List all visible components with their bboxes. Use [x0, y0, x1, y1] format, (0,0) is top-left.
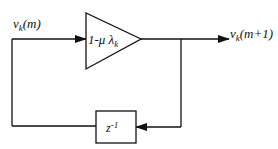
- input-label: vk(m): [13, 16, 41, 33]
- block-diagram: vk(m) 1-μ λk vk(m+1) z-1: [0, 0, 278, 149]
- output-label: vk(m+1): [230, 26, 273, 43]
